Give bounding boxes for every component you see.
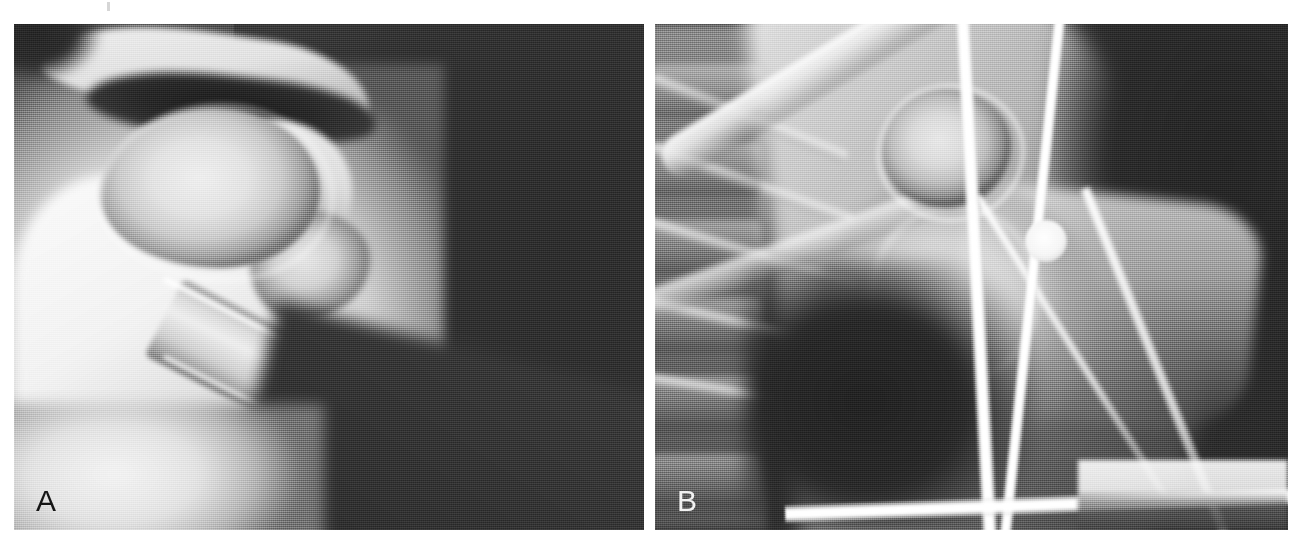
panel-a-xray-image bbox=[14, 24, 644, 530]
radiograph-figure: A bbox=[0, 0, 1305, 546]
corner-shadow-a bbox=[14, 24, 108, 88]
panel-a: A bbox=[14, 24, 644, 530]
corner-hardware-block-b bbox=[1078, 460, 1288, 530]
panel-b-xray-image bbox=[655, 24, 1288, 530]
radiopaque-marker-b bbox=[1025, 220, 1067, 262]
panel-b: B bbox=[655, 24, 1288, 530]
humeral-head-cortex-b bbox=[877, 84, 1025, 222]
lower-soft-tissue-a bbox=[14, 404, 324, 530]
scan-artifact-mark bbox=[107, 2, 110, 11]
